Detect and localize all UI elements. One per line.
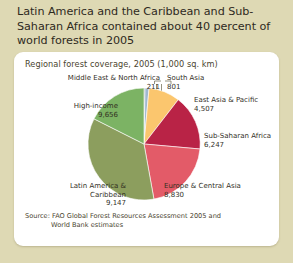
label-name-line1: Latin America & <box>70 182 126 190</box>
label-latin-america-caribbean: Latin America & Caribbean 9,147 <box>32 182 126 208</box>
label-sub-saharan-africa: Sub-Saharan Africa 6,247 <box>204 132 271 149</box>
page-headline: Latin America and the Caribbean and Sub-… <box>17 5 279 49</box>
label-value: 9,147 <box>32 199 126 208</box>
source-line-2: World Bank estimates <box>25 221 265 230</box>
chart-source: Source: FAO Global Forest Resources Asse… <box>25 212 265 230</box>
label-europe-central-asia: Europe & Central Asia 8,830 <box>164 182 241 199</box>
label-south-asia: South Asia 801 <box>167 74 204 91</box>
label-value: 6,247 <box>204 141 271 150</box>
chart-title: Regional forest coverage, 2005 (1,000 sq… <box>25 59 218 69</box>
figure-page: Latin America and the Caribbean and Sub-… <box>0 0 293 263</box>
label-name: East Asia & Pacific <box>194 96 258 104</box>
label-name: Sub-Saharan Africa <box>204 132 271 140</box>
label-value: 4,507 <box>194 105 258 114</box>
label-name: Europe & Central Asia <box>164 182 241 190</box>
label-middle-east-north-africa: Middle East & North Africa 211 <box>54 74 160 91</box>
label-name-line2: Caribbean <box>32 191 126 200</box>
label-value: 801 <box>167 83 204 92</box>
label-name: Middle East & North Africa <box>68 74 160 82</box>
label-value: 9,656 <box>22 111 118 120</box>
label-value: 8,830 <box>164 191 241 200</box>
source-line-1: Source: FAO Global Forest Resources Asse… <box>25 212 221 220</box>
chart-card: Regional forest coverage, 2005 (1,000 sq… <box>14 52 279 246</box>
label-name: High-income <box>74 102 118 110</box>
label-value: 211 <box>54 83 160 92</box>
label-name: South Asia <box>167 74 204 82</box>
label-high-income: High-income 9,656 <box>22 102 118 119</box>
label-east-asia-pacific: East Asia & Pacific 4,507 <box>194 96 258 113</box>
pie-chart: Middle East & North Africa 211 South Asi… <box>14 70 279 212</box>
